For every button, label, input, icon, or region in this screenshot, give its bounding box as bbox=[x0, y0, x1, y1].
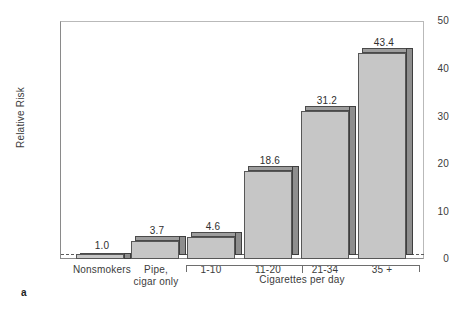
bar-front-face bbox=[187, 237, 235, 259]
bar-value-1-10: 4.6 bbox=[187, 221, 239, 232]
bar-side-face bbox=[349, 106, 356, 255]
bar-35-plus bbox=[358, 53, 406, 259]
bar-11-20 bbox=[244, 171, 292, 259]
bar-nonsmokers bbox=[76, 254, 124, 259]
group-bracket-stem bbox=[302, 266, 303, 273]
bar-1-10 bbox=[187, 237, 235, 259]
group-bracket bbox=[186, 265, 420, 272]
bar-front-face bbox=[358, 53, 406, 259]
bar-front-face bbox=[76, 254, 124, 259]
panel-letter: a bbox=[21, 287, 27, 298]
bar-value-35-plus: 43.4 bbox=[358, 37, 410, 48]
bar-side-face bbox=[406, 48, 413, 255]
bar-side-face bbox=[124, 253, 131, 259]
bar-front-face bbox=[131, 241, 179, 259]
bar-pipe-cigar bbox=[131, 241, 179, 259]
bar-front-face bbox=[244, 171, 292, 259]
bar-side-face bbox=[179, 236, 186, 255]
x-label-pipe-cigar: Pipe, cigar only bbox=[116, 264, 196, 288]
bar-front-face bbox=[301, 111, 349, 259]
bar-21-34 bbox=[301, 111, 349, 259]
x-axis-group-label: Cigarettes per day bbox=[222, 274, 382, 285]
bar-value-nonsmokers: 1.0 bbox=[76, 240, 128, 251]
bar-side-face bbox=[292, 166, 299, 255]
bar-value-11-20: 18.6 bbox=[244, 155, 296, 166]
bar-value-pipe-cigar: 3.7 bbox=[131, 225, 183, 236]
bar-value-21-34: 31.2 bbox=[301, 95, 353, 106]
y-axis-title: Relative Risk bbox=[15, 68, 26, 168]
figure-panel-a: Relative Risk 50 40 30 20 10 0 1.0 3.7 4… bbox=[0, 0, 449, 313]
bar-side-face bbox=[235, 232, 242, 255]
